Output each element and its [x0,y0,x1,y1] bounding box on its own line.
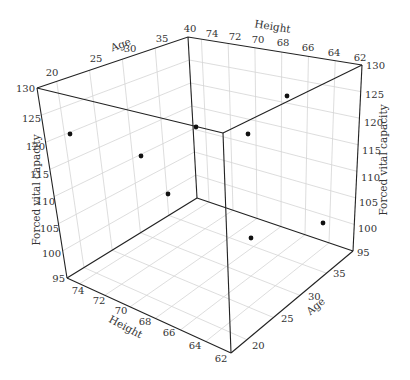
gridline [80,202,209,284]
height-top-tick: 64 [328,47,341,58]
gridline [112,250,273,317]
height-bottom-tick: 68 [139,316,152,327]
gridlines-back-left-wall [41,48,195,267]
age-axis-label-bottom: Age [303,295,327,318]
age-bottom-tick: 35 [333,268,346,279]
data-point [249,236,254,241]
age-top-tick: 20 [46,67,59,78]
fvc-right-tick: 105 [359,197,378,208]
age-top-tick: 40 [184,23,197,34]
data-point [166,192,171,197]
gridline [281,52,282,226]
data-point [139,154,144,159]
data-point [194,125,199,130]
height-bottom-tick: 74 [72,285,85,296]
height-bottom-tick: 72 [93,295,106,306]
height-top-tick: 70 [252,34,265,45]
fvc-left-tick: 100 [42,248,61,259]
height-axis-label-top: Height [254,17,293,35]
gridline [255,48,257,219]
gridline [155,227,281,319]
fvc-right-tick: 95 [357,247,370,258]
fvc-left-tick: 130 [16,83,35,94]
data-point [68,132,73,137]
data-point [285,94,290,99]
age-top-tick: 25 [90,53,103,64]
gridline [105,210,233,295]
fvc-right-tick: 100 [358,223,377,234]
gridline [155,48,169,215]
age-bottom-tick: 20 [252,340,265,351]
height-bottom-tick: 64 [189,340,202,351]
gridline [329,61,335,243]
3d-scatter-chart: 20 25 30 35 40 74 72 70 68 66 64 62 130 … [0,0,410,380]
gridline [58,152,194,224]
gridline [130,218,257,306]
age-top-tick: 35 [156,33,169,44]
gridlines-back-right-wall [189,39,360,243]
gridline [305,56,308,234]
gridline [122,59,140,233]
fvc-right-tick: 125 [365,89,384,100]
fvc-right-tick: 130 [366,60,385,71]
data-point [246,132,251,137]
data-point [321,221,326,226]
gridline [169,215,327,273]
fvc-axis-label-right: Forced vital capacity [377,104,389,215]
fvc-left-tick: 125 [22,113,41,124]
height-top-tick: 74 [206,28,219,39]
height-bottom-tick: 62 [215,353,228,364]
height-top-tick: 72 [229,31,242,42]
height-top-tick: 62 [354,52,367,63]
gridline [140,233,299,296]
gridline [54,129,193,197]
height-bottom-tick: 66 [163,327,176,338]
height-top-tick: 66 [302,42,315,53]
fvc-left-tick: 105 [40,223,59,234]
gridline [50,106,192,169]
gridline [46,83,191,142]
fvc-left-tick: 95 [52,273,65,284]
age-bottom-tick: 25 [281,313,294,324]
fvc-axis-label-left: Forced vital capacity [30,134,42,245]
tick-labels: 20 25 30 35 40 74 72 70 68 66 64 62 130 … [16,23,385,364]
data-points [68,94,326,241]
gridline [90,70,113,250]
height-top-tick: 68 [277,37,290,48]
